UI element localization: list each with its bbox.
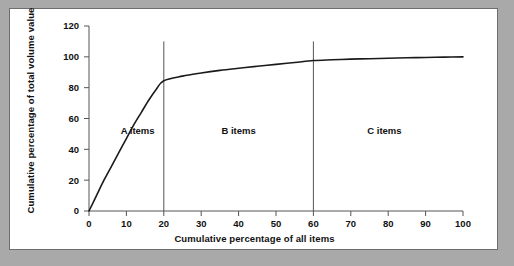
x-tick-label: 0 <box>86 218 91 229</box>
x-tick-label: 40 <box>233 218 244 229</box>
zone-label: B items <box>221 125 255 136</box>
x-tick-label: 10 <box>121 218 132 229</box>
x-axis-ticks: 0102030405060708090100 <box>86 211 471 229</box>
y-tick-label: 60 <box>68 113 79 124</box>
zone-labels: A itemsB itemsC items <box>121 125 402 136</box>
y-axis-ticks: 020406080100120 <box>63 20 89 216</box>
chart-panel: Cumulative percentage of total volume va… <box>9 8 498 250</box>
zone-label: C items <box>367 125 401 136</box>
x-tick-label: 70 <box>346 218 357 229</box>
zone-label: A items <box>121 125 155 136</box>
x-tick-label: 100 <box>455 218 471 229</box>
x-tick-label: 80 <box>383 218 394 229</box>
x-tick-label: 30 <box>196 218 207 229</box>
x-tick-label: 20 <box>159 218 170 229</box>
y-tick-label: 120 <box>63 20 79 31</box>
y-tick-label: 0 <box>74 205 79 216</box>
x-tick-label: 90 <box>420 218 431 229</box>
y-tick-label: 20 <box>68 175 79 186</box>
x-tick-label: 50 <box>271 218 282 229</box>
y-tick-label: 100 <box>63 51 79 62</box>
y-tick-label: 80 <box>68 82 79 93</box>
y-tick-label: 40 <box>68 144 79 155</box>
abc-analysis-chart: 020406080100120 0102030405060708090100 A… <box>10 9 499 251</box>
x-tick-label: 60 <box>308 218 319 229</box>
